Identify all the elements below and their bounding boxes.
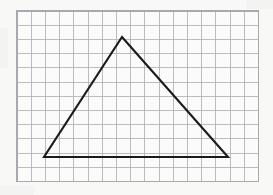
- edge-smudge-left: [0, 28, 8, 68]
- corner-smudge-bottom-left: [0, 186, 34, 195]
- figure-canvas: [0, 0, 273, 195]
- corner-smudge-top-right: [246, 0, 273, 9]
- geometry-figure: [0, 0, 273, 195]
